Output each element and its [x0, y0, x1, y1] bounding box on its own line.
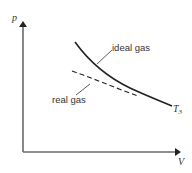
x-axis-label: V: [178, 156, 186, 167]
y-axis-label: p: [11, 12, 17, 23]
real-gas-label: real gas: [52, 94, 86, 105]
isotherm-label: T3: [173, 103, 183, 116]
ideal-gas-leader: [97, 50, 112, 64]
pv-diagram: p V ideal gas real gas T3: [0, 0, 192, 173]
isotherm-label-subscript: 3: [178, 108, 183, 116]
ideal-gas-label: ideal gas: [112, 42, 150, 53]
real-gas-curve: [72, 71, 138, 96]
